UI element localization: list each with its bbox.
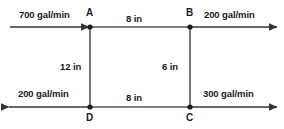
node-label-c: C	[186, 113, 193, 123]
dimension-label-ad: 12 in	[60, 62, 81, 72]
flow-label-outflow-bottom-left: 200 gal/min	[18, 89, 69, 99]
node-label-b: B	[186, 8, 193, 18]
flow-label-outflow-top-right: 200 gal/min	[204, 10, 255, 20]
node-dot-b	[187, 24, 192, 29]
node-dot-a	[87, 24, 92, 29]
node-label-a: A	[86, 8, 93, 18]
flow-label-inflow-top-left: 700 gal/min	[19, 10, 70, 20]
flow-label-outflow-bottom-right: 300 gal/min	[203, 89, 254, 99]
node-label-d: D	[86, 113, 93, 123]
dimension-label-ab: 8 in	[126, 14, 142, 24]
dimension-label-dc: 8 in	[126, 93, 142, 103]
dimension-label-bc: 6 in	[162, 62, 178, 72]
node-dot-c	[187, 104, 192, 109]
node-dot-d	[87, 104, 92, 109]
diagram-canvas: 700 gal/min 200 gal/min 200 gal/min 300 …	[0, 0, 284, 129]
